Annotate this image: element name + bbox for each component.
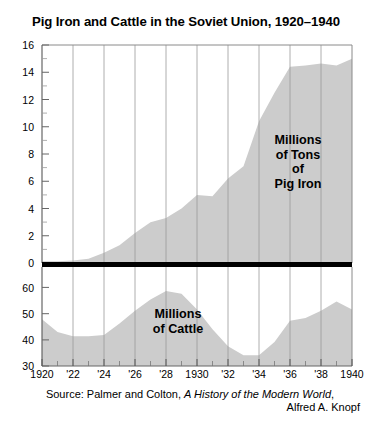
x-tick-label-1932: '32 xyxy=(213,369,243,380)
pig-iron-label-line-2: of Tons xyxy=(276,148,321,162)
y-tick-label-cattle-40: 40 xyxy=(8,335,34,345)
x-tick-label-1930: 1930 xyxy=(177,369,217,380)
x-tick-label-1934: '34 xyxy=(244,369,274,380)
source-publisher: Alfred A. Knopf xyxy=(14,401,366,414)
source-suffix: , xyxy=(331,388,334,400)
y-tick-label-pigiron-2: 2 xyxy=(8,231,34,241)
x-tick-label-1922: '22 xyxy=(58,369,88,380)
x-tick-label-1936: '36 xyxy=(275,369,305,380)
y-tick-label-pigiron-0: 0 xyxy=(8,258,34,268)
y-tick-label-pigiron-12: 12 xyxy=(8,95,34,105)
x-tick-label-1920: 1920 xyxy=(22,369,62,380)
y-tick-label-pigiron-14: 14 xyxy=(8,67,34,77)
cattle-series-label: Millions of Cattle xyxy=(122,307,234,336)
source-prefix: Source: Palmer and Colton, xyxy=(46,388,184,400)
source-note: Source: Palmer and Colton, A History of … xyxy=(14,388,366,414)
x-tick-label-1940: 1940 xyxy=(332,369,372,380)
x-tick-label-1926: '26 xyxy=(120,369,150,380)
y-tick-label-pigiron-4: 4 xyxy=(8,204,34,214)
chart-figure: Pig Iron and Cattle in the Soviet Union,… xyxy=(0,0,372,441)
zero-divider-bar xyxy=(42,262,352,267)
x-tick-label-1924: '24 xyxy=(89,369,119,380)
y-tick-label-cattle-60: 60 xyxy=(8,283,34,293)
pig-iron-label-line-3: of xyxy=(292,162,304,176)
pig-iron-label-line-4: Pig Iron xyxy=(275,177,322,191)
y-tick-label-cattle-50: 50 xyxy=(8,309,34,319)
cattle-label-line-1: Millions xyxy=(155,307,202,321)
pig-iron-series-label: Millions of Tons of Pig Iron xyxy=(248,133,348,191)
y-tick-label-pigiron-10: 10 xyxy=(8,122,34,132)
y-tick-label-pigiron-16: 16 xyxy=(8,40,34,50)
y-tick-label-pigiron-6: 6 xyxy=(8,176,34,186)
y-tick-label-pigiron-8: 8 xyxy=(8,149,34,159)
pig-iron-label-line-1: Millions xyxy=(275,133,322,147)
cattle-label-line-2: of Cattle xyxy=(153,322,203,336)
source-book-title: A History of the Modern World xyxy=(184,388,331,400)
